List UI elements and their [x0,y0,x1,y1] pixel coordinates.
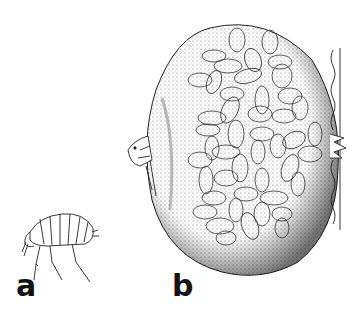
panel-label-b: b [172,271,193,301]
panel-label-a: a [16,271,36,301]
illustration [0,0,362,311]
figure: a b [0,0,362,311]
engorged-flea-b-icon [128,25,338,276]
